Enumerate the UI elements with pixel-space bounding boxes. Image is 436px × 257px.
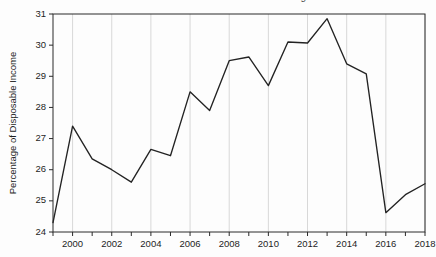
x-tick-label: 2010: [258, 238, 279, 249]
y-tick-label: 25: [35, 194, 46, 205]
line-chart: 2425262728293031 20002002200420062008201…: [0, 0, 436, 257]
x-tick-label: 2004: [140, 238, 161, 249]
y-tick-label: 30: [35, 39, 46, 50]
x-tick-label: 2002: [101, 238, 122, 249]
x-tick-label: 2012: [297, 238, 318, 249]
y-axis-title: Percentage of Disposable Income: [7, 52, 18, 195]
y-tick-label: 27: [35, 132, 46, 143]
y-tick-label: 29: [35, 70, 46, 81]
y-tick-label: 26: [35, 163, 46, 174]
y-axis-ticks: [49, 14, 53, 232]
y-tick-label: 28: [35, 101, 46, 112]
y-axis-tick-labels: 2425262728293031: [35, 8, 46, 237]
chart-figure: Household Debt Service and Financial Obl…: [0, 0, 436, 257]
y-tick-label: 31: [35, 8, 46, 19]
y-tick-label: 24: [35, 226, 46, 237]
x-tick-label: 2018: [414, 238, 435, 249]
chart-title-clipped: Household Debt Service and Financial Obl…: [0, 0, 436, 3]
x-tick-label: 2016: [375, 238, 396, 249]
plot-background: [53, 14, 425, 232]
x-axis-ticks: [53, 232, 425, 236]
x-tick-label: 2006: [179, 238, 200, 249]
x-tick-label: 2000: [62, 238, 83, 249]
x-tick-label: 2008: [219, 238, 240, 249]
plot-area-background: [53, 14, 425, 232]
x-tick-label: 2014: [336, 238, 357, 249]
x-axis-tick-labels: 2000200220042006200820102012201420162018: [62, 238, 436, 249]
